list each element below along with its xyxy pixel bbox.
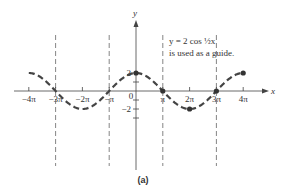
x-tick-label: −4π — [22, 94, 37, 104]
marked-point — [187, 106, 192, 111]
figure-caption: (a) — [138, 175, 149, 185]
marked-point — [133, 70, 138, 75]
x-tick-label: 2π — [185, 94, 195, 104]
x-tick-label: −2π — [75, 94, 90, 104]
marked-point — [241, 70, 246, 75]
y-axis-arrow-icon — [134, 20, 139, 27]
marked-point — [160, 88, 165, 93]
x-axis-arrow-icon — [262, 89, 269, 94]
annotation-line-2: is used as a guide. — [169, 48, 234, 58]
x-tick-label: 4π — [239, 94, 249, 104]
annotation-line-1: y = 2 cos ½x — [169, 36, 216, 46]
x-axis-label: x — [270, 86, 275, 96]
graph-figure: x y −4π−3π−2π−π0π2π3π4π2−2 y = 2 cos ½x … — [0, 0, 287, 190]
x-tick-label: 3π — [212, 94, 222, 104]
x-tick-label: −π — [104, 94, 114, 104]
x-tick-label: 0 — [129, 91, 134, 101]
x-tick-label: π — [161, 94, 166, 104]
marked-point — [214, 88, 219, 93]
cosine-plot: x y −4π−3π−2π−π0π2π3π4π2−2 y = 2 cos ½x … — [0, 0, 287, 190]
y-axis-label: y — [132, 8, 137, 18]
y-tick-label: −2 — [121, 104, 131, 114]
annotation: y = 2 cos ½x is used as a guide. — [169, 36, 234, 58]
